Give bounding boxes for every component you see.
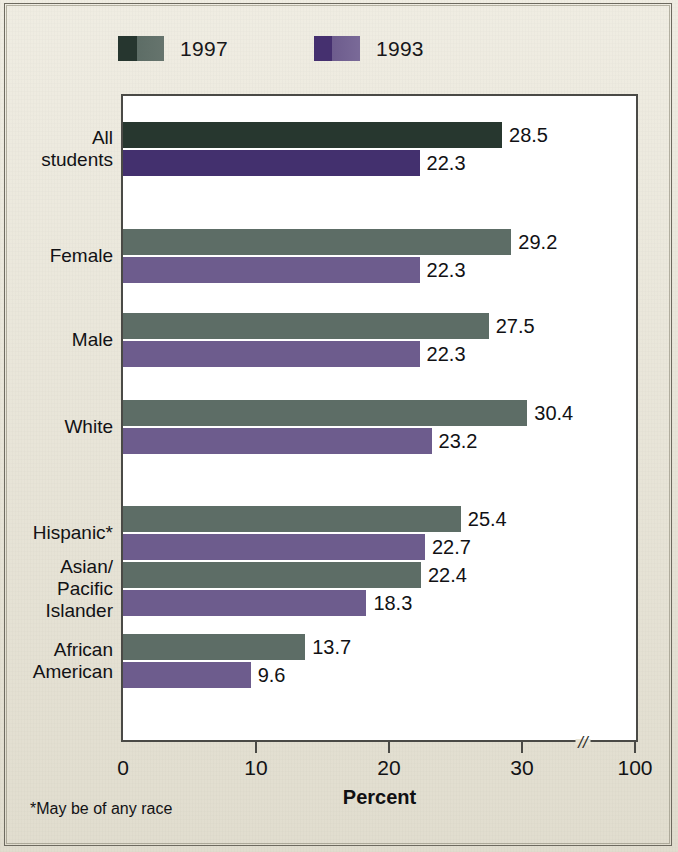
x-tick-label: 10	[244, 756, 267, 780]
x-tick-mark	[521, 742, 523, 753]
bar-1993-6	[123, 590, 366, 616]
bar-value-label: 30.4	[534, 400, 573, 426]
bar-value-label: 18.3	[373, 590, 412, 616]
category-label-line: Asian/	[1, 556, 113, 578]
bar-value-label: 22.3	[427, 341, 466, 367]
x-tick-label: 0	[117, 756, 129, 780]
bar-1993-3	[123, 341, 420, 367]
bar-value-label: 23.2	[439, 428, 478, 454]
category-label-line: Pacific	[1, 578, 113, 600]
x-axis-title: Percent	[121, 786, 638, 809]
bar-value-label: 9.6	[258, 662, 286, 688]
category-axis-labels: AllstudentsFemaleMaleWhiteHispanic*Asian…	[0, 94, 113, 742]
x-tick-mark	[388, 742, 390, 753]
bar-1997-1	[123, 122, 502, 148]
bar-value-label: 22.3	[427, 150, 466, 176]
bar-1993-2	[123, 257, 420, 283]
bar-value-label: 29.2	[518, 229, 557, 255]
category-label: White	[1, 416, 113, 438]
bar-value-label: 25.4	[468, 506, 507, 532]
category-label-line: All	[1, 127, 113, 149]
bar-1997-5	[123, 506, 461, 532]
bar-1997-4	[123, 400, 527, 426]
category-label-line: American	[1, 661, 113, 683]
legend-swatch-1993	[314, 36, 360, 61]
bar-1993-5	[123, 534, 425, 560]
category-label-line: Male	[1, 329, 113, 351]
x-tick-mark	[634, 742, 636, 753]
bar-value-label: 28.5	[509, 122, 548, 148]
bar-value-label: 22.4	[428, 562, 467, 588]
category-label: Female	[1, 245, 113, 267]
x-tick-label: 100	[617, 756, 652, 780]
category-label-line: Hispanic*	[1, 522, 113, 544]
chart-legend: 1997 1993	[118, 36, 424, 61]
bar-value-label: 22.7	[432, 534, 471, 560]
category-label: Allstudents	[1, 127, 113, 171]
category-label: Asian/PacificIslander	[1, 556, 113, 622]
legend-item-1993: 1993	[314, 36, 424, 61]
legend-swatch-1997	[118, 36, 164, 61]
category-label-line: students	[1, 149, 113, 171]
legend-item-1997: 1997	[118, 36, 228, 61]
bar-value-label: 27.5	[496, 313, 535, 339]
bar-1993-7	[123, 662, 251, 688]
category-label: Male	[1, 329, 113, 351]
x-tick-label: 20	[377, 756, 400, 780]
bar-value-label: 22.3	[427, 257, 466, 283]
category-label-line: White	[1, 416, 113, 438]
bar-1993-4	[123, 428, 432, 454]
footnote: *May be of any race	[30, 800, 172, 818]
bar-1997-6	[123, 562, 421, 588]
bar-1997-2	[123, 229, 511, 255]
category-label: Hispanic*	[1, 522, 113, 544]
category-label-line: African	[1, 639, 113, 661]
x-tick-label: 30	[510, 756, 533, 780]
bar-value-label: 13.7	[312, 634, 351, 660]
x-tick-mark	[255, 742, 257, 753]
legend-label-1997: 1997	[180, 37, 228, 61]
bar-1997-3	[123, 313, 489, 339]
bar-1997-7	[123, 634, 305, 660]
bar-1993-1	[123, 150, 420, 176]
axis-break-marker: //	[573, 733, 593, 753]
legend-label-1993: 1993	[376, 37, 424, 61]
category-label-line: Female	[1, 245, 113, 267]
bars-layer: 28.522.329.222.327.522.330.423.225.422.7…	[121, 94, 638, 742]
category-label-line: Islander	[1, 600, 113, 622]
chart-figure: 1997 1993 AllstudentsFemaleMaleWhiteHisp…	[0, 0, 678, 852]
category-label: AfricanAmerican	[1, 639, 113, 683]
